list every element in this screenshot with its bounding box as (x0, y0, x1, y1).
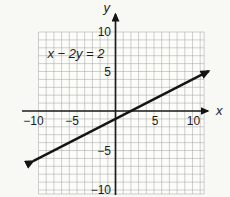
coordinate-plane-figure: −10−5510105−5−10 x − 2y = 2 x y (0, 0, 230, 197)
y-tick-label: 10 (98, 25, 112, 39)
x-tick-label: 10 (187, 114, 201, 128)
y-axis-label: y (103, 0, 112, 15)
y-tick-label: 5 (104, 65, 111, 79)
equation-label: x − 2y = 2 (46, 46, 105, 61)
y-tick-label: −10 (91, 183, 112, 197)
x-tick-label: −10 (23, 114, 44, 128)
x-axis-label: x (215, 103, 223, 118)
graph-canvas: −10−5510105−5−10 x − 2y = 2 x y (0, 0, 230, 197)
y-tick-label: −5 (97, 144, 111, 158)
x-tick-label: 5 (152, 114, 159, 128)
x-tick-label: −5 (65, 114, 79, 128)
